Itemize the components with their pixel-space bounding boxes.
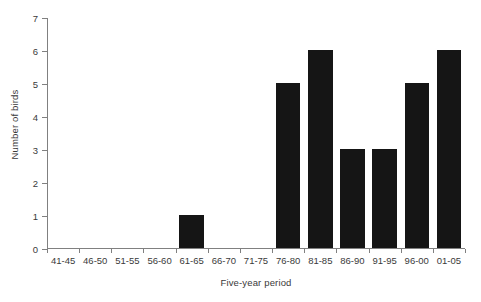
- y-tick-mark: [42, 150, 47, 151]
- bar: [179, 215, 203, 248]
- x-axis-line: [47, 248, 465, 249]
- bar: [437, 50, 461, 248]
- x-tick-mark: [304, 249, 305, 253]
- x-tick-mark: [272, 249, 273, 253]
- x-tick-label: 96-00: [405, 255, 429, 266]
- x-tick-mark: [240, 249, 241, 253]
- bar: [405, 83, 429, 248]
- y-tick-mark: [42, 18, 47, 19]
- y-tick-mark: [42, 117, 47, 118]
- x-tick-label: 46-50: [83, 255, 107, 266]
- x-tick-label: 71-75: [244, 255, 268, 266]
- x-tick-label: 91-95: [372, 255, 396, 266]
- y-tick-label: 0: [33, 244, 38, 255]
- y-tick-mark: [42, 51, 47, 52]
- y-axis-title: Number of birds: [4, 0, 26, 249]
- plot-area: 01234567 41-4546-5051-5556-6061-6566-707…: [47, 18, 465, 249]
- x-tick-mark: [465, 249, 466, 253]
- x-tick-label: 61-65: [180, 255, 204, 266]
- x-tick-label: 76-80: [276, 255, 300, 266]
- y-tick-label: 4: [33, 112, 38, 123]
- x-tick-label: 56-60: [147, 255, 171, 266]
- y-tick-label: 7: [33, 13, 38, 24]
- bar: [308, 50, 332, 248]
- bar: [340, 149, 364, 248]
- y-tick-label: 2: [33, 178, 38, 189]
- x-tick-mark: [79, 249, 80, 253]
- x-tick-mark: [143, 249, 144, 253]
- x-tick-label: 86-90: [340, 255, 364, 266]
- y-tick-mark: [42, 183, 47, 184]
- x-tick-mark: [208, 249, 209, 253]
- y-tick-label: 1: [33, 211, 38, 222]
- bar-chart: Number of birds 01234567 41-4546-5051-55…: [0, 0, 481, 302]
- x-tick-mark: [111, 249, 112, 253]
- y-tick-label: 6: [33, 46, 38, 57]
- y-tick-label: 5: [33, 79, 38, 90]
- x-tick-mark: [336, 249, 337, 253]
- y-tick-mark: [42, 216, 47, 217]
- x-tick-mark: [176, 249, 177, 253]
- x-tick-mark: [401, 249, 402, 253]
- y-tick-label: 3: [33, 145, 38, 156]
- x-axis-title: Five-year period: [47, 277, 465, 288]
- x-tick-label: 51-55: [115, 255, 139, 266]
- bar: [372, 149, 396, 248]
- y-axis-title-text: Number of birds: [10, 90, 21, 160]
- bar: [276, 83, 300, 248]
- y-axis-line: [47, 18, 48, 249]
- x-tick-label: 41-45: [51, 255, 75, 266]
- x-tick-mark: [369, 249, 370, 253]
- x-tick-mark: [433, 249, 434, 253]
- x-tick-label: 66-70: [212, 255, 236, 266]
- x-tick-label: 01-05: [437, 255, 461, 266]
- x-tick-label: 81-85: [308, 255, 332, 266]
- x-tick-mark: [47, 249, 48, 253]
- y-tick-mark: [42, 84, 47, 85]
